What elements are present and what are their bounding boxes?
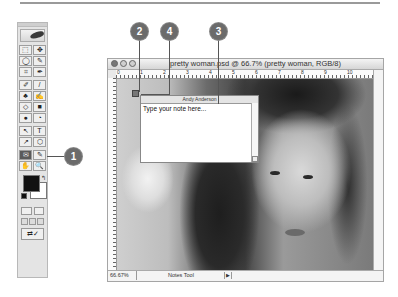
photo-eye-left — [270, 171, 280, 175]
ruler-label: 3 — [186, 69, 189, 75]
screen-mode-buttons — [21, 218, 44, 225]
photoshop-feather-logo-icon[interactable] — [20, 29, 45, 42]
status-menu-arrow[interactable]: ▶ — [224, 272, 232, 279]
photo-lips — [285, 229, 305, 236]
zoom-button[interactable] — [129, 60, 136, 67]
callout-4-line — [169, 40, 170, 95]
note-text-area[interactable]: Type your note here... — [141, 104, 258, 113]
document-window: pretty woman.psd @ 66.7% (pretty woman, … — [107, 58, 384, 282]
note-icon[interactable] — [132, 90, 139, 97]
blur-tool-icon[interactable]: ● — [19, 113, 32, 123]
vertical-scrollbar[interactable] — [373, 70, 383, 271]
color-swatches: ↰ — [20, 175, 45, 203]
eraser-tool-icon[interactable]: ◇ — [19, 102, 32, 112]
callout-3-line — [218, 40, 219, 104]
shape-tool-icon[interactable]: ⬡ — [33, 137, 46, 147]
ruler-label: 10 — [347, 69, 353, 75]
callout-1-line — [47, 156, 65, 157]
zoom-level[interactable]: 66.67% — [110, 271, 129, 280]
status-bar: 66.67% Notes Tool ▶ — [108, 270, 383, 281]
swap-colors-icon[interactable]: ↰ — [41, 174, 46, 181]
page-top-rule — [20, 2, 380, 4]
tool-grid-nav: ✉ ✎ ✋ 🔍 — [18, 150, 47, 171]
tool-grid-vector: ↖ T ↗ ⬡ — [18, 126, 47, 147]
toolbox-palette: ⬚ ✥ ◯ ✎ ⌗ ✒ ✐ / ♣ ✍ ◇ ■ ● ◔ ↖ T ↗ ⬡ ✉ ✎ … — [17, 22, 48, 278]
minimize-button[interactable] — [120, 60, 127, 67]
jump-to-imageready-button[interactable]: ⇄✓ — [21, 228, 44, 240]
window-title: pretty woman.psd @ 66.7% (pretty woman, … — [170, 59, 341, 69]
callout-4: 4 — [161, 23, 178, 40]
slice-tool-icon[interactable]: ✒ — [33, 67, 46, 77]
clone-stamp-tool-icon[interactable]: ♣ — [19, 91, 32, 101]
type-tool-icon[interactable]: T — [33, 126, 46, 136]
toolbox-grip[interactable] — [18, 23, 47, 27]
window-titlebar[interactable]: pretty woman.psd @ 66.7% (pretty woman, … — [108, 59, 383, 70]
ruler-label: 8 — [301, 69, 304, 75]
dodge-tool-icon[interactable]: ◔ — [33, 113, 46, 123]
magic-wand-tool-icon[interactable]: ✎ — [33, 56, 46, 66]
callout-4-line-horizontal — [141, 94, 170, 95]
ruler-label: 7 — [278, 69, 281, 75]
standard-mode-button[interactable] — [21, 207, 32, 215]
photo-eye-right — [303, 175, 313, 179]
hand-tool-icon[interactable]: ✋ — [19, 161, 32, 171]
ruler-label: 6 — [255, 69, 258, 75]
status-info: Notes Tool — [168, 271, 194, 280]
marquee-tool-icon[interactable]: ⬚ — [19, 45, 32, 55]
ruler-label: 1 — [140, 69, 143, 75]
mask-mode-buttons — [21, 207, 44, 215]
vertical-ruler[interactable] — [108, 78, 117, 271]
horizontal-ruler[interactable]: 0 1 2 3 4 5 6 7 8 9 10 — [116, 70, 373, 79]
close-button[interactable] — [111, 60, 118, 67]
crop-tool-icon[interactable]: ⌗ — [19, 67, 32, 77]
full-screen-menu-mode-button[interactable] — [29, 218, 36, 225]
history-brush-tool-icon[interactable]: ✍ — [33, 91, 46, 101]
foreground-color-swatch[interactable] — [23, 175, 40, 192]
lasso-tool-icon[interactable]: ◯ — [19, 56, 32, 66]
standard-screen-mode-button[interactable] — [21, 218, 28, 225]
pen-tool-icon[interactable]: ↗ — [19, 137, 32, 147]
ruler-label: 2 — [163, 69, 166, 75]
move-tool-icon[interactable]: ✥ — [33, 45, 46, 55]
tool-grid-paint: ✐ / ♣ ✍ ◇ ■ ● ◔ — [18, 80, 47, 123]
path-selection-tool-icon[interactable]: ↖ — [19, 126, 32, 136]
default-colors-icon[interactable] — [21, 193, 27, 199]
gradient-tool-icon[interactable]: ■ — [33, 102, 46, 112]
full-screen-mode-button[interactable] — [37, 218, 44, 225]
callout-2-line — [139, 40, 140, 92]
callout-2: 2 — [131, 23, 148, 40]
ruler-label: 4 — [209, 69, 212, 75]
notes-tool-icon[interactable]: ✉ — [19, 150, 32, 160]
note-scrollbar[interactable] — [251, 103, 258, 162]
callout-3: 3 — [210, 23, 227, 40]
quick-mask-mode-button[interactable] — [34, 207, 45, 215]
zoom-tool-icon[interactable]: 🔍 — [33, 161, 46, 171]
ruler-label: 5 — [232, 69, 235, 75]
note-author[interactable]: Andy Anderson — [141, 96, 258, 104]
ruler-label: 0 — [117, 69, 120, 75]
note-resize-handle[interactable] — [252, 156, 258, 162]
ruler-label: 9 — [324, 69, 327, 75]
eyedropper-tool-icon[interactable]: ✎ — [33, 150, 46, 160]
healing-brush-tool-icon[interactable]: ✐ — [19, 80, 32, 90]
brush-tool-icon[interactable]: / — [33, 80, 46, 90]
note-popup: Andy Anderson Type your note here... — [140, 95, 259, 163]
callout-1: 1 — [65, 148, 82, 165]
tool-grid: ⬚ ✥ ◯ ✎ ⌗ ✒ — [18, 45, 47, 77]
